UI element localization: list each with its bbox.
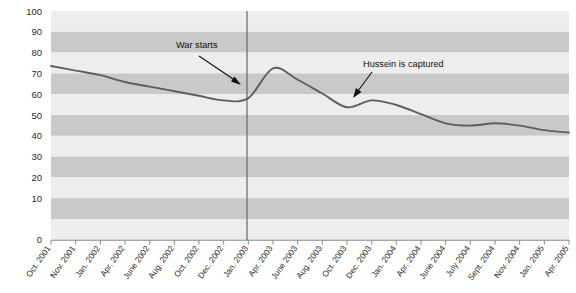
x-tick-label: Apr. 2005 bbox=[542, 243, 571, 278]
y-tick-label: 90 bbox=[31, 26, 42, 37]
y-tick-label: 70 bbox=[31, 68, 42, 79]
x-tick-label: Jan. 2003 bbox=[221, 243, 250, 279]
band-0-10 bbox=[51, 198, 569, 219]
x-tick-label: Jan. 2005 bbox=[517, 243, 546, 279]
y-tick-label: 0 bbox=[37, 234, 42, 245]
chart-canvas: 100 90 80 70 60 50 40 30 20 10 0 Oct. 20… bbox=[0, 0, 576, 293]
x-tick-label: Jan. 2002 bbox=[73, 243, 102, 279]
x-axis-labels: Oct. 2001Nov. 2001Jan. 2002Apr. 2002June… bbox=[24, 243, 571, 282]
annotation-label: War starts bbox=[176, 40, 218, 50]
y-tick-label: 10 bbox=[31, 193, 42, 204]
y-tick-label: 40 bbox=[31, 130, 42, 141]
y-tick-label: 60 bbox=[31, 89, 42, 100]
band-70-80 bbox=[51, 53, 569, 74]
annotation-label: Hussein is captured bbox=[363, 59, 444, 69]
band-80-90 bbox=[51, 32, 569, 53]
band-baseline bbox=[51, 219, 569, 240]
band-30-40 bbox=[51, 136, 569, 157]
band-50-60 bbox=[51, 94, 569, 115]
band-40-50 bbox=[51, 115, 569, 136]
approval-rating-line-chart: 100 90 80 70 60 50 40 30 20 10 0 Oct. 20… bbox=[0, 0, 576, 293]
band-20-30 bbox=[51, 157, 569, 178]
y-tick-label: 80 bbox=[31, 47, 42, 58]
band-90-100 bbox=[51, 11, 569, 32]
x-tick-label: Jan. 2004 bbox=[369, 243, 398, 279]
y-tick-label: 50 bbox=[31, 110, 42, 121]
y-tick-label: 30 bbox=[31, 151, 42, 162]
y-tick-label: 20 bbox=[31, 172, 42, 183]
x-axis-ticks bbox=[51, 240, 569, 245]
y-axis: 100 90 80 70 60 50 40 30 20 10 0 bbox=[26, 6, 42, 245]
band-10-20 bbox=[51, 177, 569, 198]
y-tick-label: 100 bbox=[26, 6, 42, 17]
plot-bands bbox=[51, 11, 569, 240]
